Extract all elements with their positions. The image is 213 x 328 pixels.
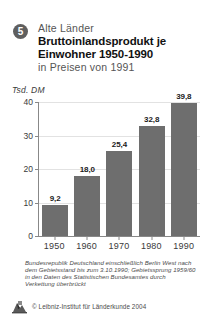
y-axis-tick-label: 10: [24, 198, 33, 208]
x-axis-tick-label: 1970: [104, 241, 135, 251]
x-axis-tick-mark: [119, 236, 120, 240]
figure-number-badge: 5: [13, 24, 28, 39]
y-axis-tick-label: 40: [24, 97, 33, 107]
page-title-line-1: Bruttoinlandsprodukt je: [38, 35, 205, 48]
bar-value-label: 39,8: [176, 92, 191, 101]
x-axis-tick-label: 1990: [168, 241, 199, 251]
x-axis-tick-label: 1960: [71, 241, 102, 251]
bar-slot: 9,2: [40, 102, 71, 236]
y-axis-tick-label: 30: [24, 131, 33, 141]
chart-footer: © Leibniz-Institut für Länderkunde 2004: [12, 300, 207, 316]
plot-area: 010203040 9,218,025,432,839,8: [38, 102, 200, 237]
chart-kicker: Alte Länder: [38, 22, 205, 35]
bar: 32,8: [139, 126, 165, 236]
title-group: Alte Länder Bruttoinlandsprodukt je Einw…: [38, 22, 205, 74]
bar: 39,8: [171, 103, 197, 236]
x-axis-labels: 19501960197019801990: [38, 241, 200, 251]
y-axis-tick-label: 0: [28, 231, 33, 241]
bar-series: 9,218,025,432,839,8: [39, 102, 200, 236]
bar-chart: 010203040 9,218,025,432,839,8 1950196019…: [12, 96, 204, 248]
y-axis-tick-label: 20: [24, 164, 33, 174]
y-axis-unit-label: Tsd. DM: [12, 85, 45, 95]
bar-slot: 32,8: [136, 102, 167, 236]
bar: 18,0: [74, 176, 100, 236]
x-axis-tick-mark: [183, 236, 184, 240]
bar-value-label: 25,4: [112, 140, 127, 149]
x-axis-tick-mark: [87, 236, 88, 240]
chart-subtitle: in Preisen von 1991: [38, 61, 205, 74]
chart-header: 5 Alte Länder Bruttoinlandsprodukt je Ei…: [0, 22, 213, 74]
chart-page: 5 Alte Länder Bruttoinlandsprodukt je Ei…: [0, 0, 213, 328]
x-axis-tick-mark: [55, 236, 56, 240]
page-title-line-2: Einwohner 1950-1990: [38, 48, 205, 61]
bar-value-label: 9,2: [50, 194, 61, 203]
bar-value-label: 18,0: [80, 165, 95, 174]
bar-slot: 39,8: [169, 102, 200, 236]
bar-slot: 25,4: [104, 102, 135, 236]
x-axis-tick-label: 1950: [39, 241, 70, 251]
bar: 9,2: [42, 205, 68, 236]
y-axis-tick-mark: [35, 236, 39, 237]
chart-footnote: Bundesrepublik Deutschland einschließlic…: [25, 260, 197, 288]
bar-value-label: 32,8: [144, 115, 159, 124]
copyright-text: © Leibniz-Institut für Länderkunde 2004: [32, 303, 146, 310]
x-axis-tick-label: 1980: [136, 241, 167, 251]
bar-slot: 18,0: [72, 102, 103, 236]
x-axis-tick-mark: [151, 236, 152, 240]
bar: 25,4: [106, 151, 132, 236]
leibniz-institut-logo-icon: [12, 300, 27, 314]
